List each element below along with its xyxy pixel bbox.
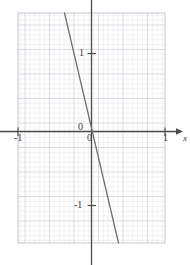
y-tick-label-1: 1 [79, 48, 84, 58]
coordinate-plane [0, 0, 190, 265]
graph-figure: -1 1 1 -1 0 0 x [0, 0, 190, 265]
origin-label-upper: 0 [78, 122, 83, 132]
x-tick-label-neg1: -1 [14, 133, 22, 143]
x-axis-label: x [183, 134, 187, 143]
origin-label-lower: 0 [87, 133, 92, 143]
y-tick-label-neg1: -1 [74, 200, 82, 210]
x-tick-label-1: 1 [163, 133, 168, 143]
